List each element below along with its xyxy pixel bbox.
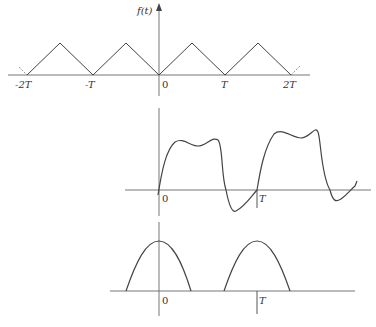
right-continuation [291,66,300,75]
tick-label-2T: 2T [282,79,297,90]
tick-label-T: T [221,79,229,90]
middle-plot: 0 T [125,108,371,216]
bottom-tick-T: T [259,295,267,306]
half-sine-pulse-2 [224,241,290,291]
top-plot: f(t) -2T -T 0 T 2T [8,3,310,96]
y-axis-arrow-icon [156,3,162,11]
middle-tick-T: T [259,193,267,204]
y-axis-label: f(t) [136,5,153,16]
tick-label-0: 0 [162,79,168,90]
bottom-plot: 0 T [110,222,355,316]
left-continuation [19,67,27,75]
tick-label-neg2T: -2T [15,79,33,90]
bottom-tick-0: 0 [162,295,168,306]
figure-canvas: f(t) -2T -T 0 T 2T 0 T 0 T [0,0,376,327]
tick-label-negT: -T [85,79,96,90]
middle-tick-0: 0 [162,193,168,204]
